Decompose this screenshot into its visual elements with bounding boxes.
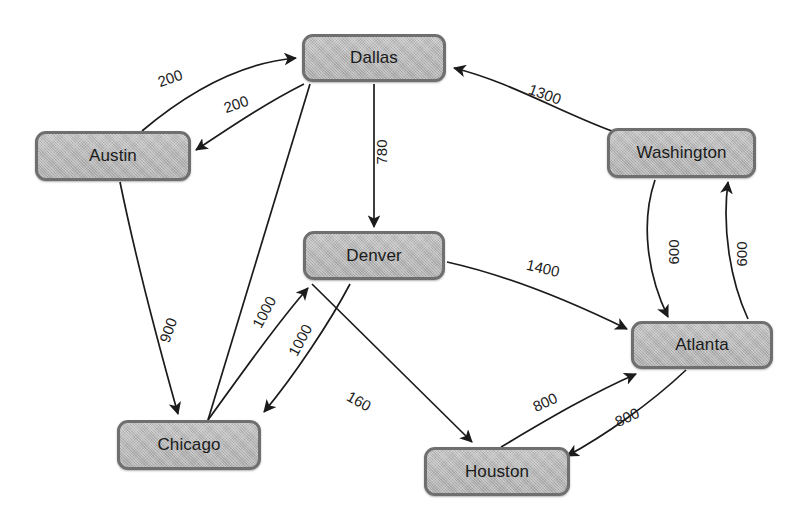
edge-denver-houston xyxy=(312,284,472,442)
node-label-houston: Houston xyxy=(465,462,529,482)
node-label-austin: Austin xyxy=(89,146,137,166)
node-austin[interactable]: Austin xyxy=(35,131,191,181)
edge-dallas-chicago xyxy=(208,84,310,420)
graph-diagram: DallasAustinWashingtonDenverAtlantaChica… xyxy=(0,0,805,523)
edge-weight-washington-atlanta: 600 xyxy=(665,239,682,264)
node-atlanta[interactable]: Atlanta xyxy=(631,321,773,369)
node-dallas[interactable]: Dallas xyxy=(302,34,446,82)
node-denver[interactable]: Denver xyxy=(303,231,445,280)
node-label-denver: Denver xyxy=(346,246,401,266)
node-washington[interactable]: Washington xyxy=(607,128,756,178)
edge-houston-atlanta xyxy=(501,374,636,447)
edge-weight-atlanta-washington: 600 xyxy=(733,241,750,266)
edge-dallas-austin xyxy=(196,84,304,150)
edge-washington-dallas xyxy=(454,68,612,131)
node-chicago[interactable]: Chicago xyxy=(117,420,261,470)
node-label-dallas: Dallas xyxy=(350,48,398,68)
node-label-atlanta: Atlanta xyxy=(675,335,729,355)
edge-weight-dallas-denver: 780 xyxy=(373,139,390,164)
node-houston[interactable]: Houston xyxy=(424,447,570,496)
edge-austin-chicago xyxy=(120,182,178,414)
node-label-chicago: Chicago xyxy=(157,435,220,455)
node-label-washington: Washington xyxy=(636,143,726,163)
edge-austin-dallas xyxy=(142,58,296,131)
